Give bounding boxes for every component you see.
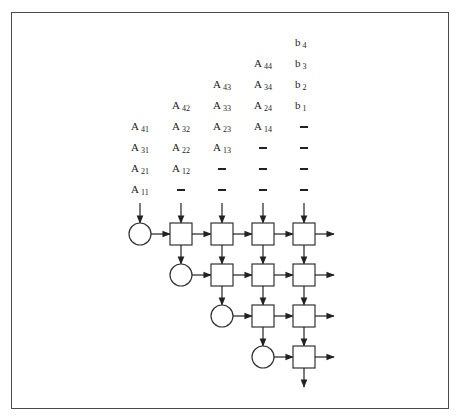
empty-slot-dash — [259, 147, 267, 149]
matrix-element-label: A13 — [213, 142, 231, 155]
empty-slot-dash — [218, 168, 226, 170]
matrix-element-label: A14 — [254, 121, 272, 134]
vector-element-label: b4 — [295, 37, 307, 50]
vector-element-label: b3 — [295, 58, 307, 71]
internal-cell-square — [252, 305, 274, 327]
internal-cell-square — [252, 264, 274, 286]
matrix-element-label: A31 — [131, 142, 149, 155]
vector-element-label: b2 — [295, 79, 307, 92]
empty-slot-dash — [300, 126, 308, 128]
internal-cell-square — [293, 223, 315, 245]
matrix-element-label: A11 — [131, 184, 149, 197]
matrix-element-label: A12 — [172, 163, 190, 176]
matrix-element-label: A21 — [131, 163, 149, 176]
matrix-element-label: A32 — [172, 121, 190, 134]
boundary-cell-circle — [129, 223, 151, 245]
matrix-element-label: A24 — [254, 100, 272, 113]
empty-slot-dash — [177, 189, 185, 191]
internal-cell-square — [170, 223, 192, 245]
processing-cells — [129, 203, 334, 387]
matrix-element-label: A41 — [131, 121, 149, 134]
internal-cell-square — [293, 305, 315, 327]
internal-cell-square — [293, 264, 315, 286]
matrix-element-label: A43 — [213, 79, 231, 92]
matrix-element-label: A42 — [172, 100, 190, 113]
empty-slot-dash — [300, 168, 308, 170]
internal-cell-square — [211, 223, 233, 245]
internal-cell-square — [252, 223, 274, 245]
matrix-element-label: A23 — [213, 121, 231, 134]
matrix-element-label: A33 — [213, 100, 231, 113]
boundary-cell-circle — [252, 346, 274, 368]
boundary-cell-circle — [170, 264, 192, 286]
internal-cell-square — [211, 264, 233, 286]
empty-slot-dash — [259, 168, 267, 170]
systolic-array-diagram — [0, 0, 462, 419]
matrix-element-label: A22 — [172, 142, 190, 155]
matrix-element-label: A34 — [254, 79, 272, 92]
boundary-cell-circle — [211, 305, 233, 327]
internal-cell-square — [293, 346, 315, 368]
empty-slot-dash — [300, 147, 308, 149]
empty-slot-dash — [218, 189, 226, 191]
empty-slot-dash — [300, 189, 308, 191]
matrix-element-label: A44 — [254, 58, 272, 71]
empty-slot-dash — [259, 189, 267, 191]
vector-element-label: b1 — [295, 100, 307, 113]
